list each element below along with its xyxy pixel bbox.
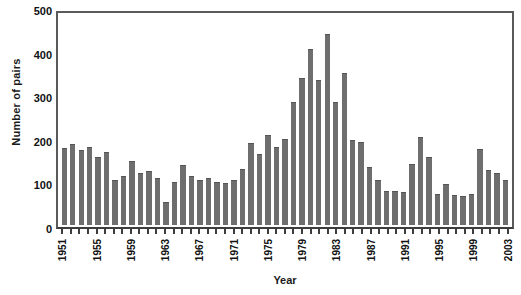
bar-slot — [306, 15, 314, 225]
bar — [138, 173, 143, 225]
xlabel-slot: 1951 — [58, 234, 67, 272]
xlabel-slot — [486, 234, 495, 272]
bar — [79, 150, 84, 225]
xlabel-slot: 1955 — [92, 234, 101, 272]
bar-slot — [315, 15, 323, 225]
bar-slot — [264, 15, 272, 225]
bar-slot — [247, 15, 255, 225]
bar — [70, 144, 75, 225]
bar-slot — [484, 15, 492, 225]
bar-slot — [221, 15, 229, 225]
bar-slot — [153, 15, 161, 225]
xlabel-slot — [306, 234, 315, 272]
xlabel-slot: 1963 — [161, 234, 170, 272]
xlabel-slot: 1983 — [332, 234, 341, 272]
bar-slot — [68, 15, 76, 225]
bar-slot — [204, 15, 212, 225]
bar — [494, 173, 499, 226]
bar-slot — [399, 15, 407, 225]
xlabel-slot: 1959 — [127, 234, 136, 272]
x-axis-title: Year — [56, 274, 514, 286]
bar — [435, 194, 440, 226]
xlabel-slot — [135, 234, 144, 272]
bar — [350, 140, 355, 225]
bar-slot — [467, 15, 475, 225]
bar-slot — [272, 15, 280, 225]
bar — [172, 182, 177, 225]
bar-slot — [340, 15, 348, 225]
y-axis-tick-label: 200 — [8, 136, 52, 148]
bar-slot — [60, 15, 68, 225]
y-axis-tick-labels: 0100200300400500 — [8, 0, 52, 295]
bar-slot — [433, 15, 441, 225]
bar-slot — [230, 15, 238, 225]
bar — [155, 178, 160, 225]
bar — [367, 167, 372, 225]
bar-slot — [476, 15, 484, 225]
bar-chart-figure: Number of pairs 0100200300400500 1951195… — [0, 0, 521, 295]
bar-slot — [255, 15, 263, 225]
xlabel-slot — [443, 234, 452, 272]
xlabel-slot — [272, 234, 281, 272]
bar — [231, 180, 236, 225]
bar-slot — [323, 15, 331, 225]
bar-slot — [196, 15, 204, 225]
y-axis-tick-label: 500 — [8, 5, 52, 17]
xlabel-slot — [75, 234, 84, 272]
xlabel-slot — [101, 234, 110, 272]
bar — [112, 180, 117, 225]
bar-slot — [382, 15, 390, 225]
y-axis-tick-label: 300 — [8, 92, 52, 104]
bar — [62, 148, 67, 225]
bar-slot — [128, 15, 136, 225]
bar — [409, 164, 414, 225]
bar — [308, 49, 313, 225]
bar — [274, 147, 279, 225]
bar-slot — [493, 15, 501, 225]
xlabel-slot — [315, 234, 324, 272]
bar-slot — [348, 15, 356, 225]
bar — [316, 80, 321, 225]
bar — [443, 184, 448, 225]
bar — [104, 152, 109, 226]
bar-slot — [374, 15, 382, 225]
bar — [189, 176, 194, 225]
bar — [146, 171, 151, 225]
bar — [460, 196, 465, 225]
xlabel-slot — [246, 234, 255, 272]
bar — [426, 157, 431, 225]
bar — [384, 191, 389, 225]
bar-slot — [102, 15, 110, 225]
bar-slot — [162, 15, 170, 225]
bar — [257, 154, 262, 225]
bar-slot — [298, 15, 306, 225]
bar — [95, 157, 100, 225]
xlabel-slot — [383, 234, 392, 272]
bar-slot — [442, 15, 450, 225]
bar — [469, 194, 474, 225]
xlabel-slot: 2003 — [503, 234, 512, 272]
xlabel-slot — [452, 234, 461, 272]
xlabel-slot — [169, 234, 178, 272]
bar-slot — [425, 15, 433, 225]
bar — [87, 147, 92, 225]
bar — [342, 73, 347, 225]
bar — [163, 202, 168, 225]
bar-slot — [187, 15, 195, 225]
xlabel-slot — [144, 234, 153, 272]
xlabel-slot: 1995 — [435, 234, 444, 272]
bar-slot — [365, 15, 373, 225]
bar — [248, 143, 253, 225]
bar — [121, 176, 126, 225]
bar-slot — [136, 15, 144, 225]
xlabel-slot — [281, 234, 290, 272]
bar-slot — [391, 15, 399, 225]
y-axis-tick-label: 0 — [8, 223, 52, 235]
xlabel-slot: 1967 — [195, 234, 204, 272]
x-axis-tick-labels: 1951195519591963196719711975197919831987… — [58, 234, 512, 272]
xlabel-slot: 1979 — [298, 234, 307, 272]
bar-slot — [238, 15, 246, 225]
bar-slot — [357, 15, 365, 225]
bar-slot — [77, 15, 85, 225]
bar-slot — [94, 15, 102, 225]
